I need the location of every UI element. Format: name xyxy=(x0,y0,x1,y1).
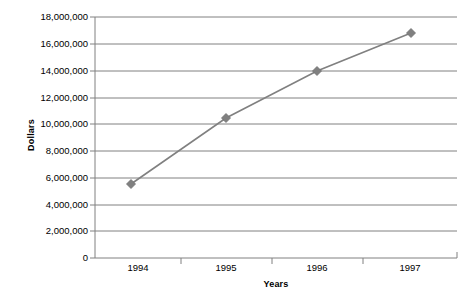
data-point-1997 xyxy=(407,29,416,38)
axis-lines xyxy=(95,17,457,258)
x-axis-ticks xyxy=(181,258,363,264)
series-line xyxy=(131,33,411,184)
gridlines xyxy=(95,17,457,231)
data-point-1996 xyxy=(313,67,322,76)
line-chart: Dollars 18,000,000 16,000,000 14,000,000… xyxy=(0,0,474,302)
y-axis-ticks xyxy=(90,17,95,258)
data-series-dollars xyxy=(127,29,416,189)
plot-area xyxy=(0,0,474,302)
